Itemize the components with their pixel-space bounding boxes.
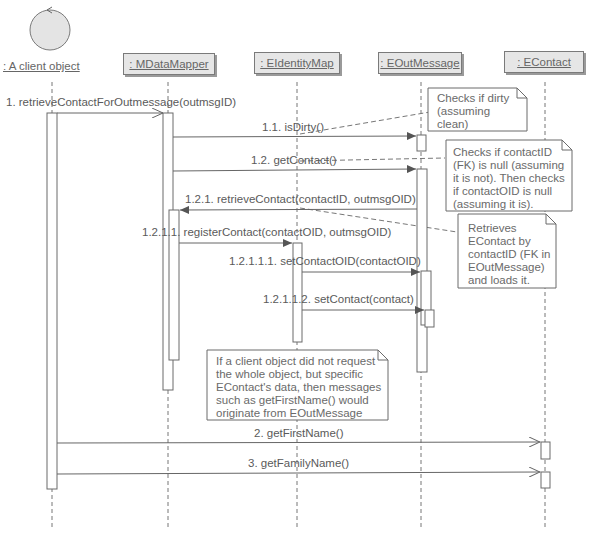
participant-outmsg[interactable]: : EOutMessage	[378, 52, 462, 74]
participant-contact[interactable]: : EContact	[504, 51, 584, 73]
msg-1-2-arrow	[173, 169, 416, 171]
msg-2-label: 2. getFirstName()	[254, 427, 343, 440]
msg-1-2-1-label: 1.2.1. retrieveContact(contactID, outmsg…	[185, 193, 416, 206]
note-3-text: Retrieves EContact by contactID (FK in E…	[468, 222, 550, 287]
participant-contact-label: : EContact	[517, 56, 571, 68]
msg-1-2-1-1-label: 1.2.1.1. registerContact(contactOID, out…	[142, 226, 391, 239]
msg-1-1-arrow	[173, 136, 416, 137]
msg-3-label: 3. getFamilyName()	[248, 457, 349, 470]
participant-outmsg-label: : EOutMessage	[380, 57, 459, 69]
msg-2-arrow	[57, 442, 540, 443]
msg-1-label: 1. retrieveContactForOutmessage(outmsgID…	[6, 96, 236, 109]
activation-outmsg-isdirty	[417, 135, 426, 151]
activation-contact-2	[541, 472, 550, 488]
msg-1-2-1-1-2-label: 1.2.1.1.2. setContact(contact)	[263, 293, 414, 306]
actor-circle-icon	[30, 7, 70, 50]
activation-outmsg-nested2	[425, 310, 434, 327]
msg-3-arrow	[57, 472, 540, 474]
note-4-text: If a client object did not request the w…	[216, 355, 381, 420]
msg-1-2-1-1-1-label: 1.2.1.1.1. setContactOID(contactOID)	[229, 255, 421, 268]
activation-contact-1	[541, 442, 550, 459]
participant-idmap-label: : EIdentityMap	[260, 57, 334, 69]
participant-client[interactable]: : A client object	[3, 60, 80, 72]
participant-mapper[interactable]: : MDataMapper	[123, 53, 215, 75]
msg-1-2-label: 1.2. getContact()	[251, 154, 337, 167]
participant-mapper-label: : MDataMapper	[129, 58, 208, 70]
participant-idmap[interactable]: : EIdentityMap	[254, 52, 340, 74]
msg-1-2-1-arrow	[180, 209, 417, 210]
note-1-text: Checks if dirty (assuming clean)	[437, 92, 509, 131]
msg-1-1-label: 1.1. isDirty()	[262, 121, 324, 134]
activation-client	[47, 113, 57, 489]
note-2-text: Checks if contactID (FK) is null (assumi…	[453, 146, 565, 211]
